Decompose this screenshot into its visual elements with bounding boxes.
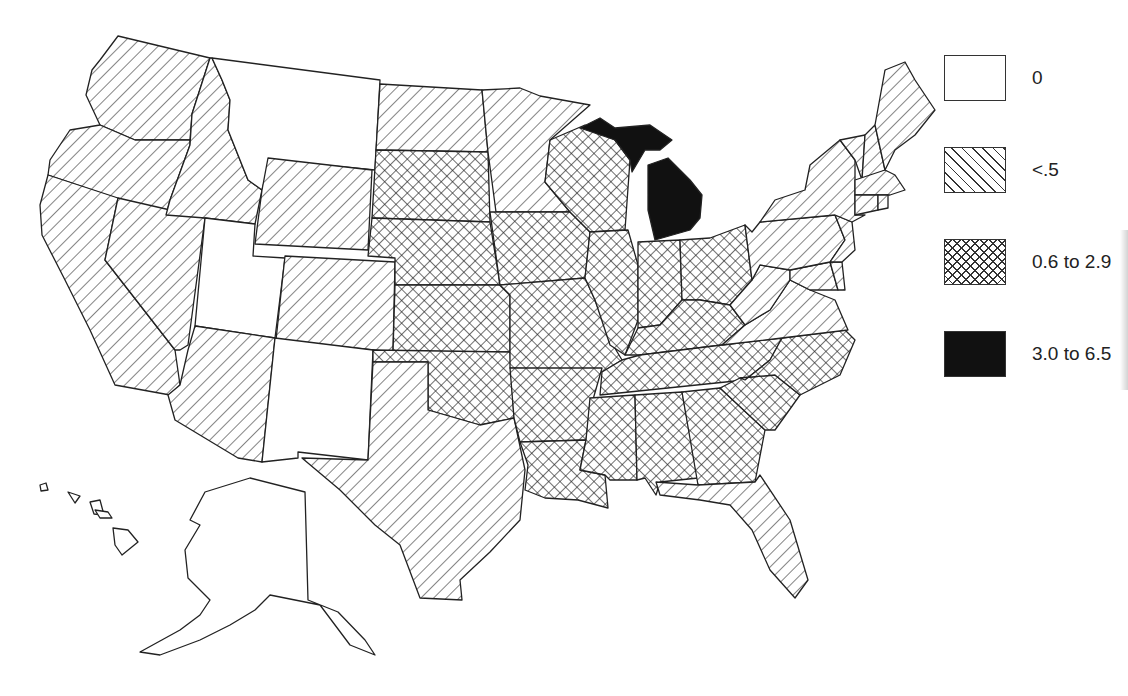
state-nm	[262, 338, 373, 462]
state-ms	[580, 395, 637, 480]
legend-swatch-blank	[944, 55, 1006, 101]
legend-item-3: 3.0 to 6.5	[944, 328, 1111, 380]
state-fl	[656, 475, 808, 598]
legend-swatch-solid	[944, 331, 1006, 377]
state-ks	[393, 285, 510, 352]
legend-label: 3.0 to 6.5	[1032, 343, 1111, 365]
state-ak	[140, 478, 375, 655]
state-hi	[40, 483, 138, 555]
state-nd	[376, 84, 488, 152]
state-ct	[855, 195, 878, 215]
state-sd	[372, 150, 490, 222]
us-choropleth-map	[0, 0, 940, 696]
state-ia	[490, 212, 590, 285]
state-me	[875, 62, 935, 170]
page-edge-shadow	[1120, 230, 1128, 390]
legend-label: 0	[1032, 67, 1043, 89]
state-co	[276, 256, 395, 352]
legend-label: <.5	[1032, 159, 1059, 181]
legend-item-0: 0	[944, 52, 1043, 104]
state-ri	[878, 195, 888, 210]
legend-swatch-diagonal	[944, 147, 1006, 193]
legend-item-2: 0.6 to 2.9	[944, 236, 1111, 288]
legend-swatch-crosshatch	[944, 239, 1006, 285]
legend-item-1: <.5	[944, 144, 1059, 196]
legend-label: 0.6 to 2.9	[1032, 251, 1111, 273]
state-wy	[255, 158, 372, 250]
